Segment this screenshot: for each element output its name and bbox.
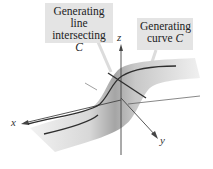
label-generating-curve-line2: curve xyxy=(147,32,173,44)
label-generating-curve-var: C xyxy=(175,32,183,44)
axis-extension-left xyxy=(85,83,97,90)
label-generating-curve: Generating curve C xyxy=(137,18,193,50)
y-axis-label: y xyxy=(160,134,165,146)
label-generating-line: Generating line intersecting C xyxy=(45,3,113,43)
x-axis-arrowhead xyxy=(21,120,29,125)
z-axis-label: z xyxy=(117,31,121,43)
label-generating-line-line1: Generating line xyxy=(48,5,110,29)
z-axis-arrowhead xyxy=(119,44,123,51)
cylinder-surface-diagram: Generating line intersecting C Generatin… xyxy=(0,0,213,169)
label-generating-line-line3: C xyxy=(48,41,110,53)
label-generating-line-line2: intersecting xyxy=(48,29,110,41)
leader-line-generating-curve xyxy=(152,50,156,62)
x-axis-label: x xyxy=(11,116,16,128)
label-generating-curve-line2-wrap: curve C xyxy=(140,32,190,44)
label-generating-curve-line1: Generating xyxy=(140,20,190,32)
cylindrical-surface xyxy=(30,58,200,152)
